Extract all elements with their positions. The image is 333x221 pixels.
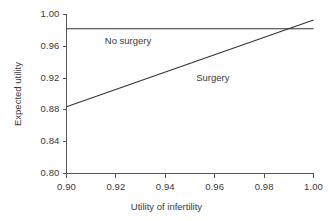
x-tick-label-1: 0.92 (92, 181, 140, 192)
tick-marks (63, 15, 314, 178)
x-axis-title: Utility of infertility (0, 201, 333, 212)
x-tick-label-2: 0.94 (141, 181, 189, 192)
x-tick-label-5: 1.00 (290, 181, 333, 192)
series-line-surgery (67, 20, 314, 107)
chart-figure: 0.800.840.880.920.961.000.900.920.940.96… (0, 0, 333, 221)
y-tick-label-4: 0.96 (41, 40, 60, 51)
y-tick-label-1: 0.84 (41, 135, 60, 146)
series-label-no-surgery: No surgery (105, 35, 151, 46)
y-tick-label-0: 0.80 (41, 167, 60, 178)
y-tick-label-2: 0.88 (41, 103, 60, 114)
x-tick-label-4: 0.98 (240, 181, 288, 192)
y-tick-label-5: 1.00 (41, 8, 60, 19)
data-series-lines (67, 20, 314, 107)
series-label-surgery: Surgery (196, 72, 229, 83)
x-tick-label-0: 0.90 (43, 181, 91, 192)
y-axis-title: Expected utility (12, 62, 23, 126)
y-tick-label-3: 0.92 (41, 72, 60, 83)
x-tick-label-3: 0.96 (191, 181, 239, 192)
